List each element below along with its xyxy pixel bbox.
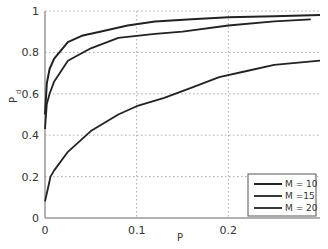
y-tick-label: 0.6	[22, 88, 40, 101]
y-label-subscript: d	[15, 90, 23, 94]
line-chart: 00.20.40.60.8100.10.2 P Pd M = 10M =15M …	[0, 0, 328, 249]
y-tick-label: 1	[32, 5, 39, 18]
data-series	[45, 15, 320, 201]
x-tick-label: 0.1	[128, 224, 146, 237]
legend-entry-label: M = 20	[285, 203, 318, 213]
y-tick-label: 0.2	[22, 171, 40, 184]
x-tick-label: 0	[42, 224, 49, 237]
y-tick-label: 0	[32, 212, 39, 225]
y-tick-label: 0.8	[22, 46, 40, 59]
y-label-main: P	[8, 97, 19, 103]
x-axis-label: P	[177, 232, 183, 243]
legend-entry-label: M =15	[285, 191, 315, 201]
y-tick-label: 0.4	[22, 129, 40, 142]
x-tick-label: 0.2	[220, 224, 238, 237]
legend-entry-label: M = 10	[285, 179, 318, 189]
legend: M = 10M =15M = 20	[248, 174, 318, 216]
